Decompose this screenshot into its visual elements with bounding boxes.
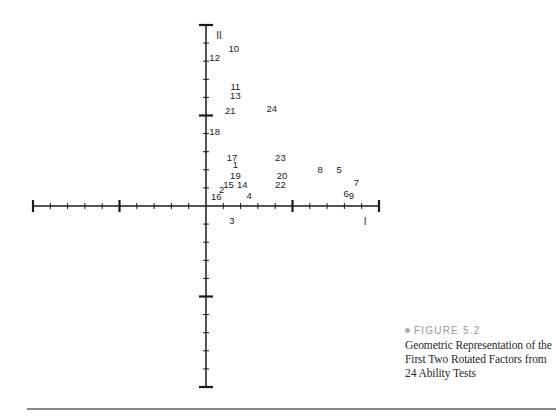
point-label-18: 18: [209, 126, 220, 137]
point-label-19: 19: [230, 170, 241, 181]
point-label-9: 9: [349, 190, 354, 201]
figure-label-text: FIGURE 5.2: [414, 325, 480, 336]
point-label-4: 4: [247, 190, 252, 201]
x-axis-label: I: [364, 216, 367, 227]
bullet-icon: [405, 328, 410, 333]
figure-label: FIGURE 5.2: [405, 324, 556, 338]
point-label-16: 16: [211, 191, 222, 202]
y-axis-label: II: [216, 30, 222, 41]
point-label-10: 10: [228, 43, 239, 54]
point-label-22: 22: [275, 179, 286, 190]
point-label-23: 23: [275, 152, 286, 163]
axes: [33, 25, 379, 387]
figure-description: Geometric Representation of the First Tw…: [405, 338, 556, 380]
point-label-8: 8: [318, 164, 323, 175]
point-label-17: 17: [227, 152, 238, 163]
point-label-5: 5: [337, 164, 342, 175]
bottom-rule: [27, 408, 556, 410]
figure-caption: FIGURE 5.2 Geometric Representation of t…: [405, 324, 556, 380]
point-labels: 123456789101112131415161718192021222324: [209, 43, 359, 226]
point-label-24: 24: [266, 103, 277, 114]
point-label-3: 3: [229, 215, 234, 226]
point-label-7: 7: [354, 177, 359, 188]
point-label-21: 21: [225, 105, 236, 116]
point-label-13: 13: [230, 90, 241, 101]
point-label-12: 12: [209, 52, 220, 63]
